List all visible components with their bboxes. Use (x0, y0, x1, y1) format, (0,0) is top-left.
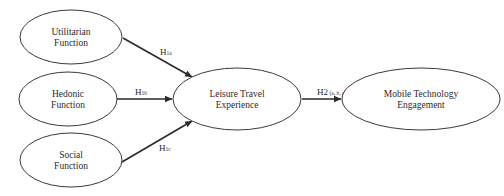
ellipse-shape (20, 10, 122, 64)
node-label-line2: Function (54, 161, 88, 171)
edge-h1b: H1b (117, 87, 172, 99)
arrow-h1c (122, 121, 192, 162)
edge-h1c: H1c (122, 121, 192, 162)
node-label-line2: Experience (216, 100, 259, 110)
ellipse-shape (19, 72, 117, 126)
node-label-line1: Social (59, 150, 83, 160)
node-leisure-travel-experience: Leisure Travel Experience (173, 68, 301, 130)
node-label-line2: Function (51, 100, 85, 110)
node-label-line1: Mobile Technology (384, 89, 459, 99)
node-label-line1: Hedonic (52, 89, 84, 99)
research-model-diagram: H1a H1b H1c H2 (a, b, c) Utilitarian Fun… (0, 0, 504, 196)
node-hedonic-function: Hedonic Function (19, 72, 117, 126)
node-label-line1: Utilitarian (51, 27, 90, 37)
edge-h1a: H1a (123, 38, 192, 77)
node-social-function: Social Function (20, 133, 122, 187)
edge-label-h1a: H1a (160, 47, 172, 57)
node-mobile-technology-engagement: Mobile Technology Engagement (342, 68, 500, 130)
node-label-line2: Engagement (397, 100, 445, 110)
node-label-line1: Leisure Travel (209, 89, 265, 99)
edge-h2: H2 (a, b, c) (302, 87, 346, 99)
edge-label-h1b: H1b (135, 87, 147, 97)
ellipse-shape (173, 68, 301, 130)
arrow-h1a (123, 38, 192, 77)
node-label-line2: Function (54, 38, 88, 48)
ellipse-shape (342, 68, 500, 130)
edge-label-h1c: H1c (159, 143, 171, 153)
node-utilitarian-function: Utilitarian Function (20, 10, 122, 64)
ellipse-shape (20, 133, 122, 187)
